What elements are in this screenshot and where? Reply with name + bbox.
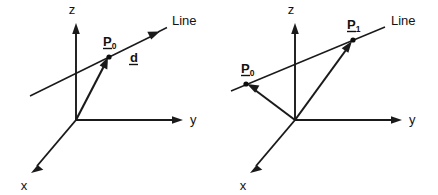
right-line-segment <box>231 27 385 91</box>
left-line-tail-extension <box>158 28 167 33</box>
right-position-vector-p1 <box>295 37 356 120</box>
right-z-axis-label: z <box>288 2 295 17</box>
right-z-axis-arrowhead <box>291 23 299 34</box>
left-x-axis-line <box>37 120 76 166</box>
left-position-vector-p0-shaft <box>76 66 104 120</box>
right-x-axis-label: x <box>240 178 247 193</box>
figure-root: z y x Line P0 <box>0 0 438 195</box>
left-direction-vector-d-label-group: d <box>129 50 138 65</box>
right-y-axis-label: y <box>409 112 416 127</box>
left-line-arrowhead <box>147 32 160 40</box>
right-point-p0-dot <box>243 81 248 86</box>
left-x-axis-arrowhead <box>31 165 43 173</box>
right-position-vector-p0 <box>243 81 295 120</box>
left-direction-vector-d-label: d <box>130 50 138 65</box>
right-x-axis: x <box>240 120 295 193</box>
left-point-p0-dot <box>106 54 111 59</box>
right-line-ray: Line <box>231 13 416 91</box>
left-line-ray: Line <box>30 13 197 96</box>
left-line-segment <box>30 36 152 96</box>
right-position-vector-p0-shaft <box>255 90 295 120</box>
right-diagram-panel: z y x Line P0 <box>219 0 438 195</box>
left-x-axis: x <box>21 120 76 193</box>
left-y-axis-label: y <box>190 112 197 127</box>
right-x-axis-line <box>256 120 295 166</box>
left-z-axis: z <box>69 2 80 120</box>
right-point-p1-label-group: P1 <box>347 17 361 34</box>
left-line-label: Line <box>172 13 197 28</box>
left-z-axis-label: z <box>69 2 76 17</box>
left-y-axis-arrowhead <box>172 116 183 124</box>
left-x-axis-label: x <box>21 178 28 193</box>
left-diagram-panel: z y x Line P0 <box>0 0 219 195</box>
right-x-axis-arrowhead <box>250 165 262 173</box>
right-line-label: Line <box>391 13 416 28</box>
right-z-axis: z <box>288 2 299 120</box>
right-point-p1-dot <box>350 37 355 42</box>
left-y-axis: y <box>76 112 197 127</box>
right-y-axis: y <box>295 112 416 127</box>
left-point-p0-label-group: P0 <box>103 34 117 51</box>
right-y-axis-arrowhead <box>391 116 402 124</box>
right-point-p0-label-group: P0 <box>241 61 255 78</box>
left-z-axis-arrowhead <box>72 23 80 34</box>
